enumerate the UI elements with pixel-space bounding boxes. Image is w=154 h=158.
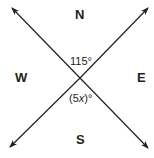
label-west: W	[15, 70, 27, 85]
line-nw-se	[12, 8, 80, 78]
angle-bottom-suffix: )°	[84, 92, 92, 104]
line-nw-se-end	[80, 78, 148, 148]
label-east: E	[137, 70, 146, 85]
line-sw-ne	[80, 8, 148, 78]
label-north: N	[75, 7, 84, 22]
angle-bottom-label: (5x)°	[69, 92, 92, 104]
angle-top-label: 115°	[70, 55, 92, 67]
line-sw-ne-end	[10, 78, 80, 147]
intersecting-lines-diagram: N S W E 115° (5x)°	[0, 0, 154, 158]
label-south: S	[76, 132, 85, 147]
angle-bottom-prefix: (5	[69, 92, 79, 104]
